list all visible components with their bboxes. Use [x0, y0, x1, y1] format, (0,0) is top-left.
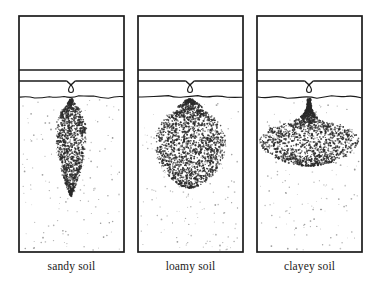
figure-canvas: sandy soilloamy soilclayey soil	[0, 0, 379, 282]
panel-label-clayey: clayey soil	[284, 260, 335, 273]
soil-wetting-patterns-figure: sandy soilloamy soilclayey soil	[0, 0, 379, 282]
panel-label-sandy: sandy soil	[48, 260, 96, 273]
panel-label-loamy: loamy soil	[166, 260, 216, 273]
